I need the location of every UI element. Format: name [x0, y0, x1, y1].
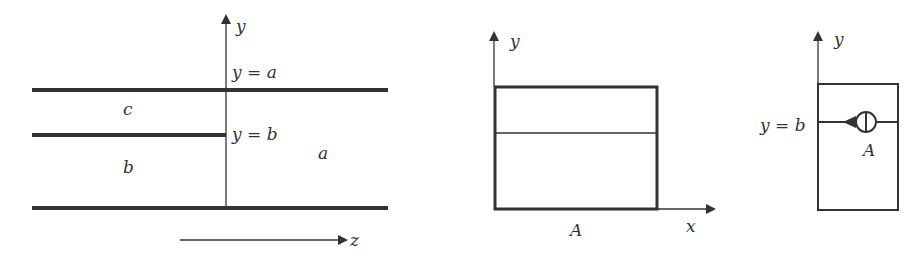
line-top-label: y = a	[231, 62, 277, 82]
waveguide-diagram: y z y = a y = b c b a y x A y y = b A	[0, 0, 924, 265]
region-b-label: b	[123, 157, 134, 177]
y-axis-label: y	[235, 16, 246, 36]
line-mid-label: y = b	[231, 124, 278, 144]
end-view-box	[818, 84, 898, 210]
guide-cross-section	[495, 87, 657, 209]
arrowhead-icon	[843, 116, 856, 128]
z-axis-label: z	[349, 230, 360, 250]
figure-cross-section: y x A	[494, 31, 714, 240]
x-axis-label: x	[686, 216, 696, 236]
y-axis-label: y	[509, 31, 520, 51]
line-label: y = b	[759, 115, 806, 135]
figure-end-view: y y = b A	[759, 29, 898, 210]
source-label: A	[861, 140, 875, 160]
region-c-label: c	[123, 99, 133, 119]
region-a-label: a	[318, 143, 328, 163]
caption-A: A	[568, 220, 582, 240]
y-axis-label: y	[833, 29, 844, 49]
figure-side-view: y z y = a y = b c b a	[32, 16, 388, 250]
